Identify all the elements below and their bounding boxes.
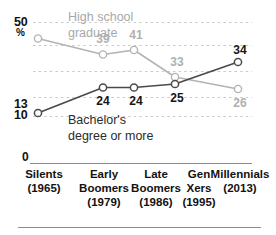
x-axis-category-millennials-year: (2013) bbox=[211, 181, 270, 195]
x-axis-category-late-boomers: Late Boomers (1986) bbox=[131, 167, 181, 209]
x-axis-category-gen-xers-name: Gen bbox=[188, 168, 210, 180]
data-label-hs-early-boomers: 39 bbox=[96, 33, 109, 46]
data-label-hs-millennials: 26 bbox=[233, 97, 246, 110]
high-school-label-line2: graduate bbox=[68, 26, 117, 40]
x-axis-category-millennials-name: Millennials bbox=[211, 168, 270, 180]
x-axis-category-gen-xers-year: (1995) bbox=[182, 195, 215, 209]
x-axis-category-silents: Silents (1965) bbox=[25, 167, 63, 195]
x-axis-category-late-boomers-name: Late bbox=[144, 168, 168, 180]
x-axis-category-late-boomers-year: (1986) bbox=[131, 195, 181, 209]
data-label-hs-late-boomers: 41 bbox=[129, 29, 142, 42]
y-axis-tick-0: 0 bbox=[22, 151, 29, 164]
footer-divider bbox=[18, 227, 261, 228]
generational-education-line-chart: 50 % 13 10 0 High school graduate Bachel… bbox=[0, 0, 276, 235]
x-axis-category-silents-year: (1965) bbox=[25, 181, 63, 195]
data-label-ba-early-boomers: 24 bbox=[96, 95, 109, 108]
chart-text-layer: 50 % 13 10 0 High school graduate Bachel… bbox=[0, 0, 276, 235]
x-axis-category-silents-name: Silents bbox=[25, 168, 63, 180]
data-label-hs-gen-xers: 33 bbox=[170, 56, 183, 69]
x-axis-category-millennials: Millennials (2013) bbox=[211, 167, 270, 195]
y-axis-unit-percent: % bbox=[16, 28, 25, 39]
high-school-label-line1: High school bbox=[68, 10, 133, 24]
bachelors-label-line1: Bachelor's bbox=[68, 113, 126, 127]
x-axis-category-early-boomers-name: Early bbox=[90, 168, 118, 180]
x-axis-category-early-boomers-year: (1979) bbox=[79, 195, 129, 209]
bachelors-label-line2: degree or more bbox=[68, 129, 153, 143]
x-axis-category-early-boomers-name2: Boomers bbox=[79, 181, 129, 195]
data-label-ba-millennials: 34 bbox=[233, 44, 246, 57]
x-axis-category-late-boomers-name2: Boomers bbox=[131, 181, 181, 195]
y-axis-tick-10: 10 bbox=[14, 109, 28, 122]
data-label-ba-gen-xers: 25 bbox=[170, 92, 183, 105]
data-label-ba-late-boomers: 24 bbox=[129, 95, 142, 108]
x-axis-category-early-boomers: Early Boomers (1979) bbox=[79, 167, 129, 209]
